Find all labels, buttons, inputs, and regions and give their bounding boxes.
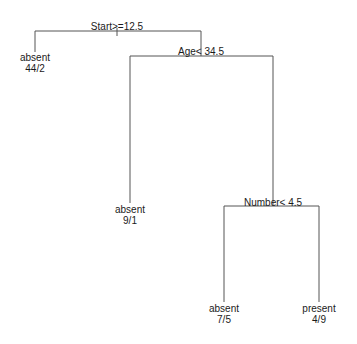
- leaf1-counts: 44/2: [25, 63, 44, 74]
- leaf4-class: present: [302, 303, 335, 314]
- number-split-edge: [224, 206, 319, 302]
- root-split-label: Start>=12.5: [91, 21, 143, 32]
- leaf3-class: absent: [209, 303, 239, 314]
- age-split-label: Age< 34.5: [178, 46, 224, 57]
- leaf2-class: absent: [115, 204, 145, 215]
- leaf3-counts: 7/5: [217, 314, 231, 325]
- root-split-edge: [35, 31, 201, 56]
- age-split-edge: [130, 56, 273, 206]
- leaf4-counts: 4/9: [312, 314, 326, 325]
- leaf1-class: absent: [20, 52, 50, 63]
- number-split-label: Number< 4.5: [244, 197, 302, 208]
- leaf2-counts: 9/1: [123, 215, 137, 226]
